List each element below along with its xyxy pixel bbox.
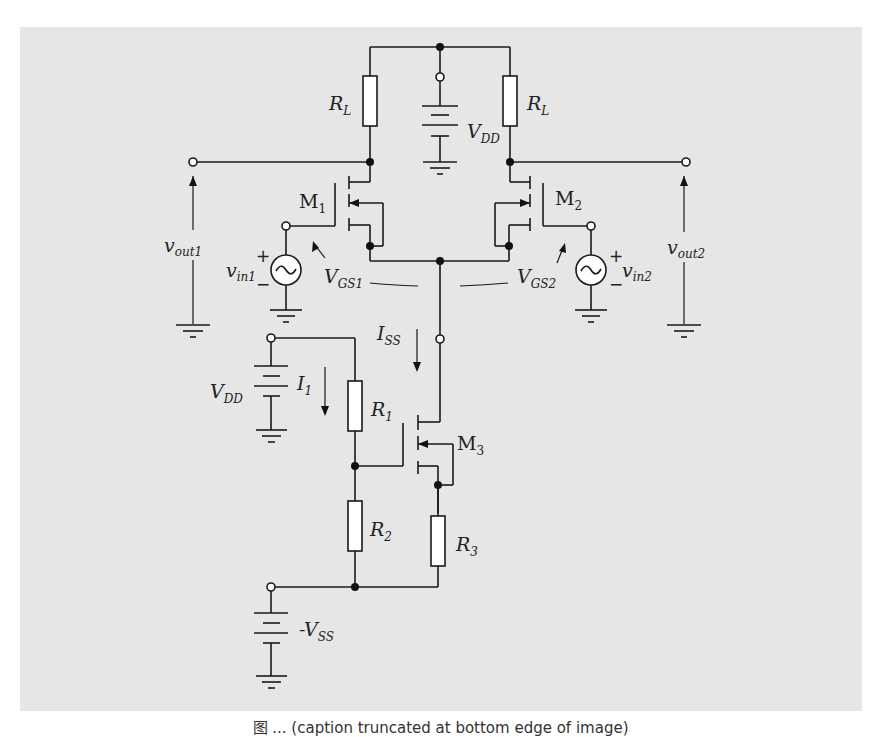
label-r2: R2	[369, 518, 392, 544]
resistor-r1	[348, 338, 362, 501]
label-m2: M2	[555, 187, 582, 213]
output-line-left	[189, 158, 374, 166]
output-line-right	[506, 158, 690, 166]
label-rl-right: RL	[526, 92, 549, 118]
label-vgs1: VGS1	[324, 265, 363, 291]
battery-vss-icon	[254, 583, 438, 688]
label-vdd-top: VDD	[467, 120, 500, 146]
ac-source-vin2-icon	[575, 222, 607, 322]
label-r1: R1	[370, 398, 393, 424]
label-rl-left: RL	[328, 92, 351, 118]
iss-arrow-icon	[413, 329, 421, 372]
label-vin1: vin1	[226, 259, 256, 284]
figure-caption: 图 ... (caption truncated at bottom edge …	[0, 716, 881, 737]
label-vgs2: VGS2	[517, 265, 556, 291]
label-m1: M1	[299, 190, 326, 216]
label-vdd-bias: VDD	[210, 380, 243, 406]
label-vout2: vout2	[667, 236, 705, 261]
label-i1: I1	[296, 372, 312, 398]
vin1-plus: +	[256, 246, 270, 266]
resistor-rl-left	[363, 76, 377, 162]
label-vout1: vout1	[164, 234, 202, 259]
label-vss: -VSS	[299, 618, 334, 644]
transistor-m2-icon	[495, 162, 587, 261]
resistor-r3	[431, 485, 445, 587]
i1-arrow-icon	[321, 367, 329, 416]
battery-vdd-top-icon	[422, 47, 458, 174]
resistor-r2	[348, 501, 362, 587]
resistor-rl-right	[503, 76, 517, 162]
vin1-minus: −	[256, 274, 270, 294]
label-vin2: vin2	[622, 259, 652, 284]
ac-source-vin1-icon	[270, 222, 302, 322]
label-iss: ISS	[376, 322, 401, 348]
label-r3: R3	[455, 533, 478, 559]
label-m3: M3	[457, 432, 484, 458]
